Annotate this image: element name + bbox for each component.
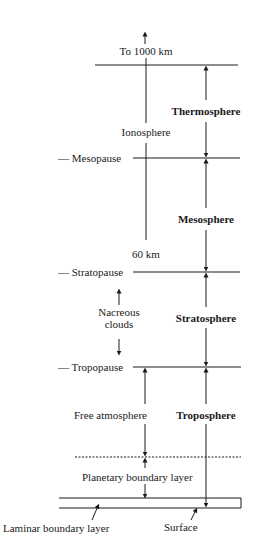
surface-pointer-arrow [191, 510, 196, 520]
mesopause-label: — Mesopause [58, 152, 121, 164]
top-label: To 1000 km [118, 45, 174, 57]
nacreous-clouds-line2: clouds [92, 318, 146, 330]
nacreous-clouds-line1: Nacreous [92, 306, 146, 318]
mesopause-name: Mesopause [72, 152, 122, 164]
stratopause-label: — Stratopause [58, 266, 123, 278]
laminar-boundary-layer-label: Laminar boundary layer [3, 522, 109, 534]
troposphere-label: Troposphere [160, 409, 252, 421]
thermosphere-label: Thermosphere [160, 105, 252, 117]
surface-label: Surface [164, 521, 198, 533]
stratosphere-label: Stratosphere [160, 312, 252, 324]
stratopause-name: Stratopause [72, 266, 123, 278]
atmosphere-layers-diagram [0, 0, 260, 549]
ionosphere-bottom-label: 60 km [126, 248, 166, 260]
ionosphere-label: Ionosphere [113, 126, 179, 138]
mesopause-dash: — [58, 152, 69, 164]
mesosphere-label: Mesosphere [160, 213, 252, 225]
tropopause-dash: — [58, 361, 69, 373]
planetary-boundary-layer-label: Planetary boundary layer [82, 471, 193, 483]
stratopause-dash: — [58, 266, 69, 278]
free-atmosphere-label: Free atmosphere [74, 409, 147, 421]
tropopause-label: — Tropopause [58, 361, 123, 373]
tropopause-name: Tropopause [72, 361, 124, 373]
